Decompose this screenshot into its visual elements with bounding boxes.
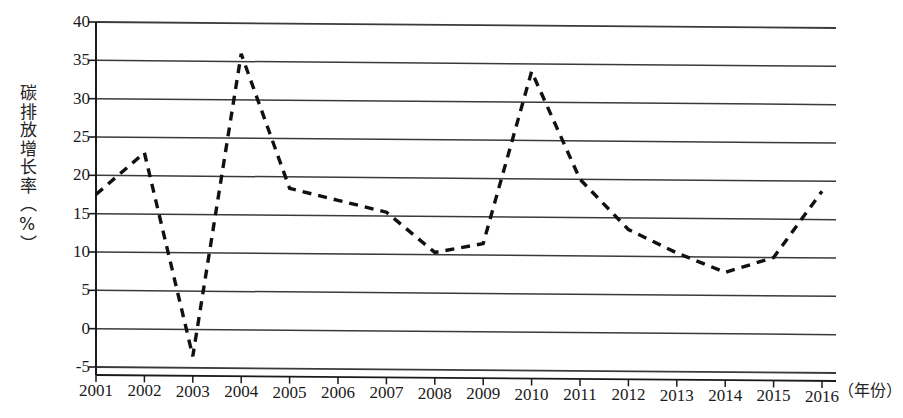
x-axis-title: （年份） (838, 381, 902, 401)
line-chart-plot (0, 0, 903, 418)
gridlines-group (96, 22, 836, 373)
axes-group (96, 22, 836, 381)
chart-figure: 碳排放增长率（%） 4035302520151050-5 20012002200… (0, 0, 903, 418)
x-axis-tick-labels: 2001200220032004200520062007200820092010… (0, 381, 903, 411)
y-tick-marks-group (89, 22, 96, 367)
